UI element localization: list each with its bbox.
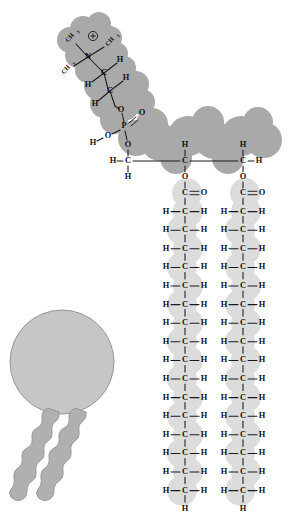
chain-2-ch2-2-h-right: H [259,225,266,234]
chain-2-ch2-6-h-right: H [259,300,266,309]
chain-1-ch2-5-h-left: H [163,281,170,290]
chain-1-ch2-5-carbon: C [182,281,188,290]
simplified-phospholipid-symbol [10,310,115,501]
chain-2-ch2-4-h-right: H [259,262,266,271]
chain-2-ch2-12-h-right: H [259,411,266,420]
chain-1-ch2-14-h-right: H [201,448,208,457]
phosphate-ester-oxygen-lower: O [125,140,132,149]
chain-1-carbonyl-carbon: C [182,188,188,197]
chain-1-ch2-2-h-right: H [201,225,208,234]
chain-1-ch2-8-carbon: C [182,337,188,346]
phosphate-ester-oxygen-upper: O [118,105,125,114]
chain-2-carbonyl-carbon: C [240,188,246,197]
glycerol-c1-carbon: C [125,156,131,165]
chain-1-ch2-13-h-right: H [201,430,208,439]
chain-2-ch2-13-carbon: C [240,430,246,439]
chain-2-ch2-5-carbon: C [240,281,246,290]
chain-2-ch2-9-carbon: C [240,355,246,364]
chain-1-ch2-8-h-right: H [201,337,208,346]
chain-2-ch2-14-h-left: H [221,448,228,457]
chain-2-ch2-6-h-left: H [221,300,228,309]
chain-1-ch2-1-h-right: H [201,207,208,216]
chain-2-ch2-11-h-right: H [259,393,266,402]
chain-2-ch2-3-carbon: C [240,244,246,253]
chain-1-ch2-12-h-left: H [163,411,170,420]
chain-2-ch2-11-h-left: H [221,393,228,402]
chain-2-ch2-13-h-left: H [221,430,228,439]
chain-1-ch2-7-carbon: C [182,318,188,327]
chain-1-ch2-1-carbon: C [182,207,188,216]
chain-1-ch2-3-h-right: H [201,244,208,253]
chain-2-ch2-14-h-right: H [259,448,266,457]
chain-2-terminal-hydrogen: H [240,504,247,512]
chain-1-ch2-16-h-left: H [163,486,170,495]
chain-2-ch2-9-h-left: H [221,355,228,364]
nitrogen-label: N [85,52,91,61]
chain-2-ch2-16-h-left: H [221,486,228,495]
chain-1-ch2-6-h-right: H [201,300,208,309]
choline-ch2-2-h-right: H [123,73,130,82]
phospholipid-diagram: N CH 3 CH 3 CH 3 [0,0,289,512]
choline-ch2-1-h-right: H [117,55,124,64]
glycerol-c3-oxygen: O [240,172,247,181]
chain-2-ch2-6-carbon: C [240,300,246,309]
chain-1-ch2-10-carbon: C [182,374,188,383]
chain-2-ch2-1-h-left: H [221,207,228,216]
chain-1-ch2-12-carbon: C [182,411,188,420]
molecule-canvas: N CH 3 CH 3 CH 3 [0,0,289,512]
chain-1-ch2-12-h-right: H [201,411,208,420]
chain-2-carbonyl-oxygen: O [259,188,266,197]
chain-2-ch2-15-h-right: H [259,467,266,476]
phosphate-hydroxyl-hydrogen: H [90,138,97,147]
chain-2-ch2-8-h-right: H [259,337,266,346]
chain-2-ch2-7-h-left: H [221,318,228,327]
glycerol-c3-h-right: H [256,156,263,165]
chain-2-ch2-12-h-left: H [221,411,228,420]
chain-2-ch2-3-h-right: H [259,244,266,253]
chain-1-ch2-1-h-left: H [163,207,170,216]
chain-2-ch2-10-carbon: C [240,374,246,383]
chain-2-ch2-10-h-left: H [221,374,228,383]
chain-1-ch2-10-h-right: H [201,374,208,383]
chain-2-ch2-1-carbon: C [240,207,246,216]
glycerol-c2-oxygen: O [182,172,189,181]
chain-1-ch2-4-carbon: C [182,262,188,271]
chain-1-ch2-4-h-left: H [163,262,170,271]
chain-1-ch2-7-h-right: H [201,318,208,327]
chain-1-ch2-16-h-right: H [201,486,208,495]
chain-1-ch2-9-h-right: H [201,355,208,364]
chain-2-ch2-1-h-right: H [259,207,266,216]
choline-ch2-1-h-left: H [85,80,92,89]
chain-2-ch2-15-h-left: H [221,467,228,476]
chain-1-carbonyl-oxygen: O [201,188,208,197]
chain-2-ch2-2-carbon: C [240,225,246,234]
chain-2-ch2-8-h-left: H [221,337,228,346]
chain-2-ch2-12-carbon: C [240,411,246,420]
chain-1-ch2-6-carbon: C [182,300,188,309]
chain-1-ch2-4-h-right: H [201,262,208,271]
chain-1-ch2-14-h-left: H [163,448,170,457]
chain-2-ch2-7-h-right: H [259,318,266,327]
chain-1-ch2-16-carbon: C [182,486,188,495]
chain-1-ch2-9-carbon: C [182,355,188,364]
chain-1-ch2-11-carbon: C [182,393,188,402]
chain-1-ch2-9-h-left: H [163,355,170,364]
chain-2-ch2-9-h-right: H [259,355,266,364]
glycerol-c3-h-above: H [240,140,247,149]
chain-2-ch2-13-h-right: H [259,430,266,439]
phosphorus-label: P [121,121,126,130]
chain-1-ch2-3-carbon: C [182,244,188,253]
glycerol-c1-h-below: H [125,172,132,181]
chain-2-ch2-4-h-left: H [221,262,228,271]
chain-1-ch2-13-carbon: C [182,430,188,439]
chain-2-ch2-2-h-left: H [221,225,228,234]
chain-2-ch2-3-h-left: H [221,244,228,253]
chain-1-ch2-11-h-right: H [201,393,208,402]
chain-1-ch2-7-h-left: H [163,318,170,327]
chain-1-ch2-14-carbon: C [182,448,188,457]
chain-1-ch2-15-h-left: H [163,467,170,476]
chain-2-ch2-14-carbon: C [240,448,246,457]
phosphate-hydroxyl-oxygen: O [105,131,112,140]
chain-2-ch2-4-carbon: C [240,262,246,271]
glycerol-c3-carbon: C [240,156,246,165]
